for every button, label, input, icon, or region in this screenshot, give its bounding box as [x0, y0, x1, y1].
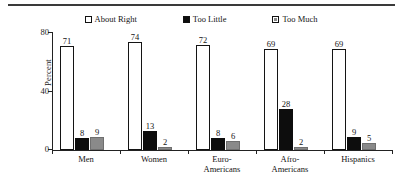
bar-group: 74132 — [120, 31, 188, 150]
bar: 69 — [332, 49, 346, 150]
legend-swatch-too-much-icon — [272, 16, 279, 23]
legend-label-too-much: Too Much — [282, 15, 317, 24]
category-label: Men — [52, 155, 120, 165]
bar: 5 — [362, 143, 376, 150]
legend-item-about-right: About Right — [85, 15, 137, 24]
bar: 9 — [347, 137, 361, 150]
bar-value-label: 72 — [199, 36, 208, 45]
bar-value-label: 71 — [63, 37, 72, 46]
bar: 2 — [294, 147, 308, 150]
y-tick-label: 80 — [41, 28, 50, 37]
figure-canvas: About Right Too Little Too Much Percent … — [0, 0, 402, 192]
chart-legend: About Right Too Little Too Much — [0, 15, 402, 24]
bar-value-label: 28 — [282, 100, 291, 109]
bar: 28 — [279, 109, 293, 150]
bar-group: 6995 — [324, 31, 392, 150]
bar: 72 — [196, 45, 210, 150]
bar: 2 — [158, 147, 172, 150]
legend-item-too-much: Too Much — [272, 15, 317, 24]
x-tick-mark — [52, 150, 53, 154]
bar: 13 — [143, 131, 157, 150]
bar-value-label: 6 — [231, 132, 235, 141]
category-label: Euro- Americans — [188, 155, 256, 174]
x-tick-mark — [324, 150, 325, 154]
category-label: Afro- Americans — [256, 155, 324, 174]
legend-swatch-about-right-icon — [85, 16, 92, 23]
category-label: Hispanics — [324, 155, 392, 165]
bar: 9 — [90, 137, 104, 150]
x-tick-mark — [188, 150, 189, 154]
bar-group: 7189 — [52, 31, 120, 150]
bar-value-label: 5 — [367, 134, 371, 143]
bar-group: 69282 — [256, 31, 324, 150]
x-tick-mark — [120, 150, 121, 154]
bar: 6 — [226, 141, 240, 150]
bar: 8 — [75, 138, 89, 150]
bar-value-label: 74 — [131, 33, 140, 42]
bar: 69 — [264, 49, 278, 150]
bar: 74 — [128, 42, 142, 150]
bar-value-label: 2 — [163, 138, 167, 147]
x-tick-mark — [256, 150, 257, 154]
bar-value-label: 9 — [352, 128, 356, 137]
legend-item-too-little: Too Little — [183, 15, 227, 24]
bar-value-label: 8 — [80, 129, 84, 138]
bar-value-label: 2 — [299, 138, 303, 147]
bar-value-label: 9 — [95, 128, 99, 137]
bar-value-label: 13 — [146, 122, 155, 131]
legend-label-about-right: About Right — [95, 15, 137, 24]
top-rule-divider — [8, 4, 395, 6]
legend-label-too-little: Too Little — [193, 15, 227, 24]
bar: 8 — [211, 138, 225, 150]
bar-value-label: 69 — [335, 40, 344, 49]
bar-value-label: 8 — [216, 129, 220, 138]
legend-swatch-too-little-icon — [183, 16, 190, 23]
y-tick-label: 40 — [41, 86, 50, 95]
bar-value-label: 69 — [267, 40, 276, 49]
bar: 71 — [60, 46, 74, 150]
bar-group: 7286 — [188, 31, 256, 150]
x-tick-mark — [392, 150, 393, 154]
plot-area: Percent 04080 7189741327286692826995 Men… — [52, 30, 392, 151]
x-axis-line — [52, 150, 392, 151]
y-tick-label: 0 — [45, 145, 49, 154]
category-label: Women — [120, 155, 188, 165]
